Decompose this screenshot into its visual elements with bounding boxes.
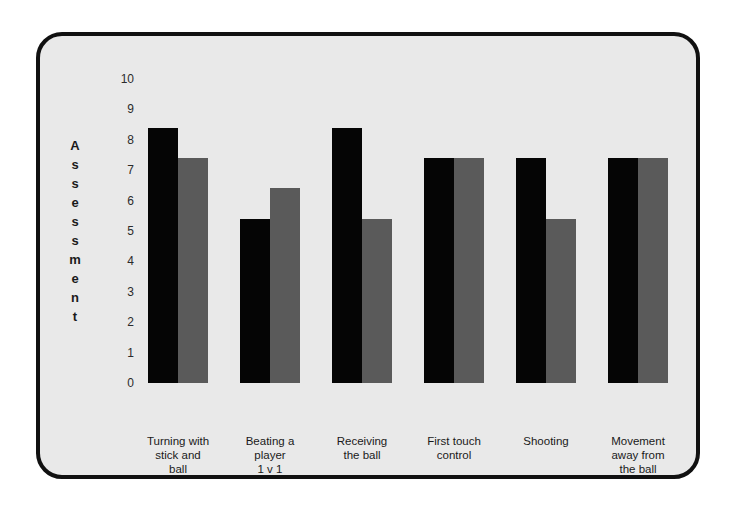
y-axis-title-letter: s [64, 212, 86, 231]
x-axis-category-label-line: ball [128, 462, 228, 476]
x-axis-category-label-line: First touch [404, 434, 504, 448]
x-axis-category-label-line: the ball [312, 448, 412, 462]
x-axis-category-label-line: Turning with [128, 434, 228, 448]
bar [424, 158, 454, 383]
y-axis-title-letter: e [64, 269, 86, 288]
x-axis-category-label-line: control [404, 448, 504, 462]
x-axis-category-label: First touchcontrol [404, 434, 504, 462]
bar [638, 158, 668, 383]
y-axis-tick-labels: 109876543210 [96, 41, 144, 401]
x-axis-category-label-line: Beating a [220, 434, 320, 448]
x-axis-category-label-line: Movement [588, 434, 688, 448]
bar-group [424, 41, 484, 401]
bar [608, 158, 638, 383]
chart-panel: Assessment 109876543210 Turning withstic… [36, 32, 700, 479]
bar-group [148, 41, 208, 401]
bar-group [608, 41, 668, 401]
x-axis-category-label-line: 1 v 1 [220, 462, 320, 476]
x-axis-category-label-line: stick and [128, 448, 228, 462]
y-axis-title-letter: e [64, 193, 86, 212]
x-axis-category-label: Turning withstick andball [128, 434, 228, 476]
bar-series-layer [144, 41, 696, 401]
y-axis-title-letter: s [64, 174, 86, 193]
bar [148, 128, 178, 383]
y-axis-tick-label: 5 [104, 225, 134, 237]
x-axis-category-label-line: Receiving [312, 434, 412, 448]
x-axis-category-label-line: away from [588, 448, 688, 462]
y-axis-title: Assessment [64, 136, 86, 326]
x-axis-category-label: Shooting [496, 434, 596, 448]
y-axis-title-letter: n [64, 288, 86, 307]
bar [270, 188, 300, 383]
y-axis-title-letter: m [64, 250, 86, 269]
y-axis-tick-label: 0 [104, 377, 134, 389]
bar [362, 219, 392, 383]
bar-group [516, 41, 576, 401]
y-axis-tick-label: 10 [104, 73, 134, 85]
x-axis-category-label: Beating aplayer1 v 1 [220, 434, 320, 476]
y-axis-tick-label: 9 [104, 103, 134, 115]
bar-group [240, 41, 300, 401]
y-axis-tick-label: 7 [104, 164, 134, 176]
x-axis-category-label: Receivingthe ball [312, 434, 412, 462]
y-axis-tick-label: 6 [104, 195, 134, 207]
y-axis-title-letter: s [64, 155, 86, 174]
y-axis-title-letter: t [64, 307, 86, 326]
bar-group [332, 41, 392, 401]
y-axis-tick-label: 4 [104, 255, 134, 267]
y-axis-tick-label: 2 [104, 316, 134, 328]
x-axis-category-label-line: Shooting [496, 434, 596, 448]
y-axis-tick-label: 3 [104, 286, 134, 298]
bar [332, 128, 362, 383]
y-axis-tick-label: 8 [104, 134, 134, 146]
plot-area: 109876543210 [96, 41, 696, 401]
bar [516, 158, 546, 383]
x-axis-category-labels: Turning withstick andballBeating aplayer… [144, 434, 696, 494]
y-axis-title-letter: A [64, 136, 86, 155]
x-axis-category-label-line: the ball [588, 462, 688, 476]
bar [178, 158, 208, 383]
x-axis-category-label-line: player [220, 448, 320, 462]
y-axis-title-letter: s [64, 231, 86, 250]
x-axis-category-label: Movementaway fromthe ball [588, 434, 688, 476]
bar [546, 219, 576, 383]
bar [240, 219, 270, 383]
y-axis-tick-label: 1 [104, 347, 134, 359]
bar [454, 158, 484, 383]
